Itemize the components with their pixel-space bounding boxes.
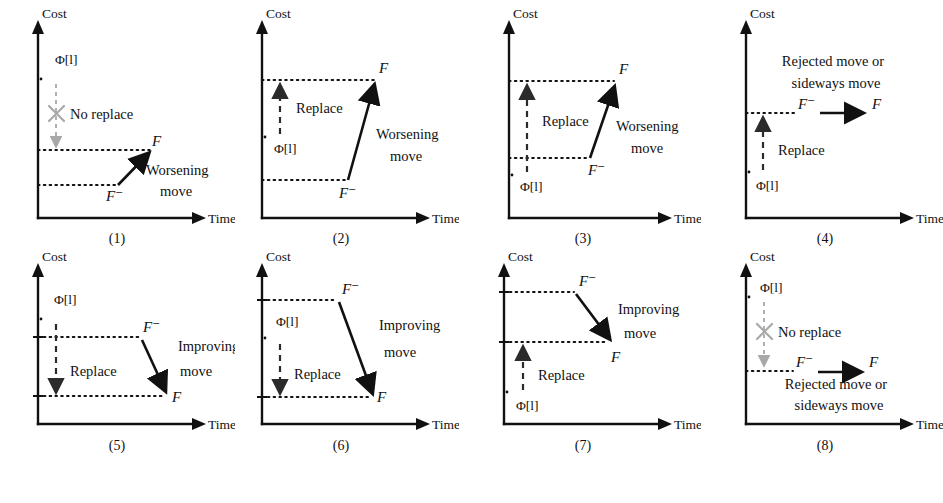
x-axis-label: Time bbox=[432, 417, 459, 432]
y-axis-label: Cost bbox=[750, 252, 775, 264]
point-label-F: F bbox=[376, 389, 387, 405]
phi-label: Φ[l] bbox=[520, 179, 543, 194]
y-axis-label: Cost bbox=[508, 252, 533, 264]
x-axis-label: Time bbox=[916, 417, 943, 432]
move-type-line-2: move bbox=[390, 148, 422, 164]
phi-tick bbox=[40, 78, 43, 81]
y-axis-arrowhead bbox=[498, 263, 510, 277]
move-type-line-2: move bbox=[624, 325, 656, 341]
panel-4: Cost Time Rejected move or sideways move… bbox=[708, 0, 943, 251]
point-label-F: F bbox=[610, 349, 621, 365]
move-type-line-2: move bbox=[631, 140, 663, 156]
panel-caption: (2) bbox=[333, 231, 350, 247]
x-axis-arrowhead bbox=[900, 418, 914, 430]
point-label-F: F bbox=[618, 61, 629, 77]
move-arrow bbox=[348, 86, 374, 180]
point-label-F: F bbox=[868, 354, 879, 370]
phi-tick bbox=[264, 136, 267, 139]
y-axis-label: Cost bbox=[266, 6, 291, 21]
x-axis-label: Time bbox=[916, 211, 943, 226]
decision-label: Replace bbox=[778, 142, 825, 158]
y-axis-arrowhead bbox=[740, 20, 752, 34]
y-axis-arrowhead bbox=[740, 263, 752, 277]
decision-label: Replace bbox=[538, 367, 585, 383]
decision-label: Replace bbox=[296, 100, 343, 116]
y-axis-label: Cost bbox=[750, 6, 775, 21]
phi-label: Φ[l] bbox=[276, 314, 299, 329]
point-label-F: F bbox=[151, 133, 162, 149]
x-axis-arrowhead bbox=[416, 418, 430, 430]
move-type-line-1: Worsening bbox=[146, 162, 208, 178]
move-type-line-1: Worsening bbox=[616, 118, 678, 134]
phi-label: Φ[l] bbox=[760, 280, 783, 295]
phi-label: Φ[l] bbox=[516, 398, 539, 413]
panel-2: Cost Time Φ[l] Replace F F⁻ Worsening mo… bbox=[224, 0, 459, 251]
panel-caption: (3) bbox=[575, 231, 592, 247]
y-axis-arrowhead bbox=[256, 263, 268, 277]
figure-eight-panel-acceptance-diagram: Cost Time Φ[l] No replace F F⁻ Worsening… bbox=[0, 0, 943, 503]
point-label-F-minus: F⁻ bbox=[578, 273, 596, 289]
panel-6: Cost Time Φ[l] Replace F⁻ F Improving mo… bbox=[224, 252, 459, 503]
y-axis-arrowhead bbox=[32, 20, 44, 34]
point-label-F-minus: F⁻ bbox=[338, 185, 356, 201]
move-arrow bbox=[142, 340, 165, 390]
y-axis-label: Cost bbox=[42, 252, 67, 264]
move-type-line-1: Rejected move or bbox=[785, 376, 887, 392]
panel-5: Cost Time Φ[l] Replace F⁻ F Improving mo… bbox=[0, 252, 235, 503]
panel-caption: (7) bbox=[575, 438, 592, 454]
move-type-line-2: move bbox=[160, 183, 192, 199]
phi-tick bbox=[264, 337, 267, 340]
point-label-F-minus: F⁻ bbox=[587, 162, 605, 178]
y-axis-arrowhead bbox=[503, 20, 515, 34]
point-label-F-minus: F⁻ bbox=[797, 96, 815, 112]
move-type-line-1: Worsening bbox=[376, 126, 438, 142]
x-axis-arrowhead bbox=[192, 418, 206, 430]
phi-label: Φ[l] bbox=[756, 178, 779, 193]
move-arrow bbox=[339, 302, 372, 392]
phi-label: Φ[l] bbox=[54, 292, 77, 307]
x-axis-label: Time bbox=[674, 211, 701, 226]
move-type-line-2: move bbox=[180, 363, 212, 379]
move-type-line-1: Improving bbox=[618, 301, 679, 317]
panel-7: Cost Time F⁻ F Improving move Φ[l] Repla… bbox=[466, 252, 701, 503]
panel-1: Cost Time Φ[l] No replace F F⁻ Worsening… bbox=[0, 0, 235, 251]
phi-tick bbox=[748, 171, 751, 174]
y-axis-label: Cost bbox=[513, 6, 538, 21]
move-type-line-2: sideways move bbox=[792, 75, 881, 91]
panel-caption: (4) bbox=[817, 231, 834, 247]
panel-3: Cost Time Φ[l] Replace F F⁻ Worsening mo… bbox=[466, 0, 701, 251]
phi-label: Φ[l] bbox=[55, 52, 78, 67]
y-axis-label: Cost bbox=[42, 6, 67, 21]
point-label-F-minus: F⁻ bbox=[142, 319, 160, 335]
point-label-F-minus: F⁻ bbox=[105, 188, 123, 204]
panel-8: Cost Time Φ[l] No replace F⁻ F Rejected … bbox=[708, 252, 943, 503]
phi-tick bbox=[506, 391, 509, 394]
x-axis-label: Time bbox=[432, 211, 459, 226]
phi-label: Φ[l] bbox=[274, 141, 297, 156]
decision-label: Replace bbox=[542, 113, 589, 129]
move-type-line-2: move bbox=[384, 344, 416, 360]
move-arrow bbox=[118, 154, 148, 185]
x-axis-arrowhead bbox=[416, 212, 430, 224]
point-label-F: F bbox=[378, 60, 389, 76]
x-axis-arrowhead bbox=[658, 418, 672, 430]
point-label-F: F bbox=[871, 96, 882, 112]
x-axis-arrowhead bbox=[192, 212, 206, 224]
decision-label: No replace bbox=[70, 106, 133, 122]
move-arrow bbox=[576, 294, 609, 338]
phi-tick bbox=[40, 318, 43, 321]
point-label-F-minus: F⁻ bbox=[341, 281, 359, 297]
move-type-line-1: Rejected move or bbox=[782, 53, 884, 69]
x-axis-arrowhead bbox=[658, 212, 672, 224]
panel-caption: (6) bbox=[333, 438, 350, 454]
y-axis-arrowhead bbox=[256, 20, 268, 34]
decision-label: No replace bbox=[778, 324, 841, 340]
panel-caption: (5) bbox=[109, 438, 126, 454]
move-type-line-2: sideways move bbox=[795, 397, 884, 413]
y-axis-arrowhead bbox=[32, 263, 44, 277]
point-label-F: F bbox=[171, 389, 182, 405]
panel-caption: (1) bbox=[109, 231, 126, 247]
decision-label: Replace bbox=[294, 366, 341, 382]
x-axis-label: Time bbox=[674, 417, 701, 432]
move-type-line-1: Improving bbox=[379, 317, 440, 333]
